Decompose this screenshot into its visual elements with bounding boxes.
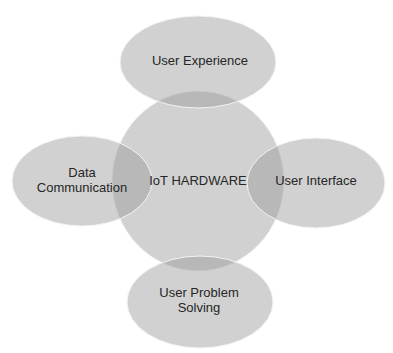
center-label: IoT HARDWARE [149,173,247,188]
satellite-bottom-label-line1: User Problem [159,285,238,300]
iot-hardware-diagram: IoT HARDWARE User Experience Data Commun… [0,0,393,353]
satellite-bottom-label-line2: Solving [178,300,221,315]
satellite-right-label: User Interface [275,173,357,188]
satellite-left-label-line2: Communication [37,180,127,195]
satellite-top-label: User Experience [152,53,248,68]
satellite-left-label-line1: Data [68,165,96,180]
